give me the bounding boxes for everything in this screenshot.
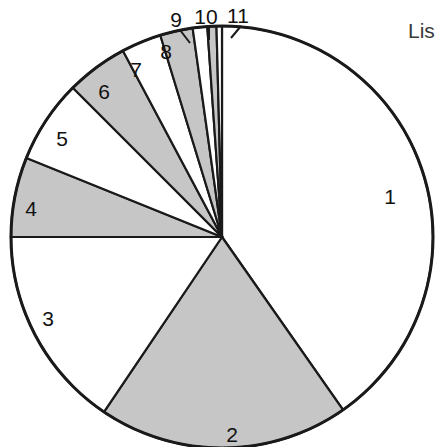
- pie-slice-label-7: 7: [130, 59, 142, 80]
- side-caption-text: Lis: [408, 20, 435, 41]
- pie-slice-label-8: 8: [160, 41, 172, 62]
- pie-slice-label-2: 2: [226, 424, 238, 445]
- pie-slices-group: [11, 26, 433, 447]
- pie-slice-label-9: 9: [170, 9, 182, 30]
- pie-chart-figure: 1234567891011 Lis: [0, 0, 446, 447]
- pie-slice-label-6: 6: [98, 81, 110, 102]
- pie-slice-label-11: 11: [227, 5, 249, 26]
- pie-slice-label-5: 5: [56, 128, 68, 149]
- pie-slice-label-3: 3: [42, 308, 54, 329]
- pie-chart-canvas: [0, 0, 446, 447]
- pie-slice-label-1: 1: [384, 186, 396, 207]
- pie-slice-label-10: 10: [194, 6, 217, 27]
- pie-slice-label-4: 4: [25, 198, 37, 219]
